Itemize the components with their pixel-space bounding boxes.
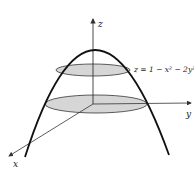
diagram-svg: z y x z = 1 − x² − 2y² bbox=[0, 0, 194, 171]
y-axis-label: y bbox=[185, 109, 192, 119]
paraboloid-diagram: z y x z = 1 − x² − 2y² bbox=[0, 0, 194, 171]
x-axis bbox=[9, 104, 93, 156]
x-axis-label: x bbox=[13, 159, 18, 169]
z-axis-label: z bbox=[97, 19, 103, 29]
surface-equation-label: z = 1 − x² − 2y² bbox=[133, 65, 194, 74]
